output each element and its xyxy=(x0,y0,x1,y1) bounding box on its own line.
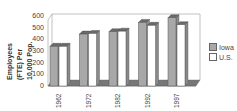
x-tick-1992: 1992 xyxy=(144,94,151,108)
x-tick-1972: 1972 xyxy=(85,94,92,108)
legend-swatch-iowa xyxy=(209,43,217,51)
bar-us-1992 xyxy=(148,22,159,86)
bar-us-1972 xyxy=(89,31,100,87)
x-tick-1962: 1962 xyxy=(55,94,62,108)
bar-us-1982 xyxy=(118,28,129,86)
legend: Iowa U.S. xyxy=(209,42,234,62)
legend-item-iowa: Iowa xyxy=(209,42,234,52)
x-tick-1982: 1982 xyxy=(114,94,121,108)
x-tick-1997: 1997 xyxy=(173,94,180,108)
legend-swatch-us xyxy=(209,53,217,61)
bar-us-1962 xyxy=(59,43,70,86)
legend-label-iowa: Iowa xyxy=(219,44,234,51)
bar-us-1997 xyxy=(177,22,188,86)
legend-item-us: U.S. xyxy=(209,52,234,62)
legend-label-us: U.S. xyxy=(219,54,233,61)
